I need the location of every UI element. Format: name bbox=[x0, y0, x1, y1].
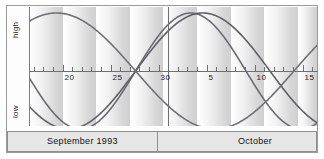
biorhythm-chart: 20253051015 high low September 1993 Octo… bbox=[0, 0, 324, 159]
period-footer: September 1993 October bbox=[7, 131, 317, 152]
curve-physical bbox=[29, 13, 317, 126]
footer-divider bbox=[157, 132, 158, 151]
curve-intellectual bbox=[29, 13, 317, 126]
plot-area bbox=[29, 7, 317, 126]
biorhythm-curves bbox=[29, 7, 317, 126]
curve-emotional bbox=[29, 13, 317, 126]
footer-label-october: October bbox=[238, 136, 272, 146]
footer-label-september: September 1993 bbox=[47, 136, 118, 146]
